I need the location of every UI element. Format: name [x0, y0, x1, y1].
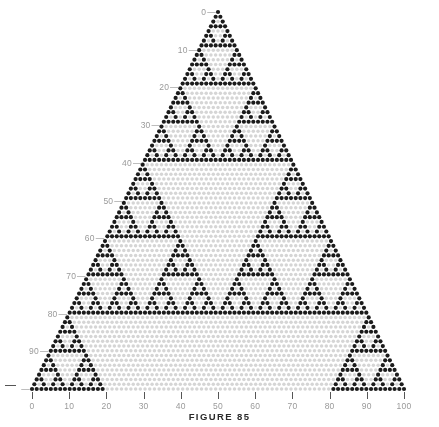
left-axis-tick-label-0: 0—: [172, 8, 216, 17]
left-axis-tick-label-10: 10—: [153, 45, 197, 54]
figure-container: 0—10—20—30—40—50—60—70—80—90—— 010203040…: [0, 0, 439, 427]
sierpinski-gasket-plot: [0, 0, 439, 427]
bottom-axis-tick-100: [404, 392, 405, 399]
bottom-axis-tick-label-100: 100: [397, 402, 412, 411]
bottom-axis-tick-label-10: 10: [64, 402, 74, 411]
left-axis-tick-text: 60: [85, 233, 95, 243]
left-axis-tick-text: 70: [66, 271, 76, 281]
left-axis-tick-label-100: —: [0, 385, 30, 394]
left-axis-tick-text: 10: [178, 44, 188, 54]
bottom-axis-tick-0: [32, 392, 33, 399]
bottom-axis-tick-label-80: 80: [325, 402, 335, 411]
left-axis-tick-text: 40: [122, 158, 132, 168]
left-axis-tick-label-90: 90—: [5, 347, 49, 356]
bottom-axis-tick-80: [330, 392, 331, 399]
left-axis-tick-text: 90: [29, 346, 39, 356]
figure-caption: FIGURE 85: [0, 411, 439, 422]
bottom-axis-tick-label-90: 90: [362, 402, 372, 411]
bottom-axis-tick-20: [106, 392, 107, 399]
bottom-axis-tick-label-70: 70: [287, 402, 297, 411]
bottom-axis-tick-label-40: 40: [176, 402, 186, 411]
bottom-axis-tick-50: [218, 392, 219, 399]
left-axis-tick-label-80: 80—: [23, 309, 67, 318]
left-axis-tick-label-30: 30—: [116, 121, 160, 130]
left-axis-tick-text: 30: [141, 120, 151, 130]
bottom-axis-tick-label-30: 30: [139, 402, 149, 411]
bottom-axis-tick-70: [292, 392, 293, 399]
bottom-axis-tick-10: [69, 392, 70, 399]
bottom-axis-tick-90: [367, 392, 368, 399]
bottom-axis-tick-label-50: 50: [213, 402, 223, 411]
bottom-axis-tick-label-60: 60: [250, 402, 260, 411]
left-axis-tick-label-40: 40—: [98, 159, 142, 168]
bottom-axis-tick-label-0: 0: [30, 402, 35, 411]
left-axis-tick-label-50: 50—: [79, 196, 123, 205]
bottom-axis-tick-label-20: 20: [101, 402, 111, 411]
left-axis-tick-text: 50: [103, 195, 113, 205]
left-axis-tick-label-20: 20—: [135, 83, 179, 92]
bottom-axis-tick-40: [181, 392, 182, 399]
left-axis-tick-text: 20: [159, 82, 169, 92]
left-axis-tick-label-60: 60—: [60, 234, 104, 243]
left-axis-end-dash: [5, 385, 16, 386]
left-axis-tick-text: 80: [48, 308, 58, 318]
bottom-axis-tick-30: [144, 392, 145, 399]
bottom-axis-tick-60: [255, 392, 256, 399]
left-axis-tick-label-70: 70—: [42, 272, 86, 281]
